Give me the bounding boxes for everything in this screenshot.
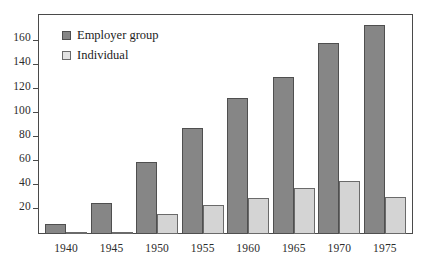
- y-axis-tick-mark: [33, 160, 38, 161]
- x-axis-tick-label: 1975: [362, 236, 408, 260]
- bar-employer-group: [318, 43, 339, 234]
- x-axis-tick-label: 1950: [134, 236, 180, 260]
- y-axis-tick-mark: [33, 64, 38, 65]
- y-axis-tick-mark: [33, 112, 38, 113]
- x-axis-tick-label: 1960: [225, 236, 271, 260]
- bar-group: [271, 15, 317, 234]
- bar-employer-group: [364, 25, 385, 234]
- bar-individual: [112, 232, 133, 234]
- x-axis-tick-label: 1955: [180, 236, 226, 260]
- chart-legend: Employer group Individual: [62, 28, 159, 63]
- y-axis-tick-label: 60: [19, 153, 31, 165]
- y-axis-tick-mark: [33, 208, 38, 209]
- bar-chart: 20406080100120140160 1940194519501955196…: [0, 0, 434, 272]
- bar-employer-group: [182, 128, 203, 234]
- bar-employer-group: [136, 162, 157, 234]
- y-axis-tick-label: 120: [13, 81, 31, 93]
- bar-individual: [294, 188, 315, 234]
- y-axis-tick-mark: [33, 88, 38, 89]
- bar-group: [225, 15, 271, 234]
- x-axis: 19401945195019551960196519701975: [39, 236, 411, 260]
- bar-individual: [339, 181, 360, 234]
- bar-employer-group: [45, 224, 66, 234]
- legend-label-individual: Individual: [77, 49, 128, 62]
- bar-employer-group: [91, 203, 112, 234]
- bar-employer-group: [273, 77, 294, 234]
- y-axis-tick-mark: [33, 184, 38, 185]
- x-axis-tick-label: 1970: [317, 236, 363, 260]
- bar-individual: [66, 232, 87, 234]
- bar-individual: [157, 214, 178, 234]
- y-axis-tick-label: 80: [19, 129, 31, 141]
- legend-swatch-icon-individual: [62, 51, 71, 60]
- y-axis-tick-label: 100: [13, 105, 31, 117]
- legend-item-individual: Individual: [62, 48, 159, 63]
- bar-individual: [203, 205, 224, 234]
- bar-group: [180, 15, 226, 234]
- legend-label-employer-group: Employer group: [77, 29, 159, 42]
- legend-swatch-icon-employer-group: [62, 31, 71, 40]
- y-axis-tick-label: 40: [19, 177, 31, 189]
- y-axis-tick-label: 160: [13, 32, 31, 44]
- bar-individual: [248, 198, 269, 234]
- y-axis-tick-label: 140: [13, 56, 31, 68]
- x-axis-tick-label: 1940: [43, 236, 89, 260]
- bar-group: [317, 15, 363, 234]
- y-axis-tick-label: 20: [19, 201, 31, 213]
- y-axis-tick-mark: [33, 40, 38, 41]
- bar-individual: [385, 197, 406, 234]
- y-axis-tick-mark: [33, 136, 38, 137]
- legend-item-employer-group: Employer group: [62, 28, 159, 43]
- bar-employer-group: [227, 98, 248, 234]
- bar-group: [362, 15, 408, 234]
- y-axis: 20406080100120140160: [0, 14, 38, 234]
- x-axis-tick-label: 1965: [271, 236, 317, 260]
- x-axis-tick-label: 1945: [89, 236, 135, 260]
